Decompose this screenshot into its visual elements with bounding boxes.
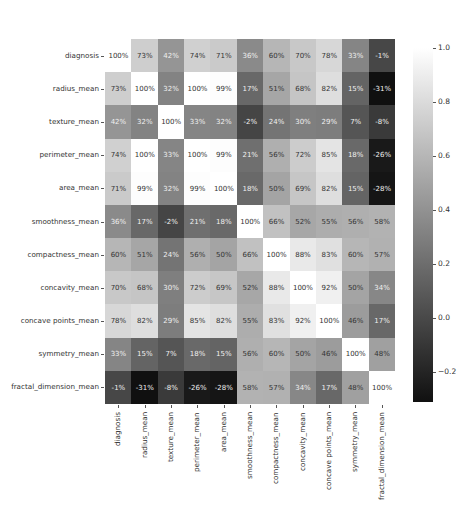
heatmap-cell: 46%: [342, 304, 369, 338]
x-tick: [197, 405, 198, 408]
heatmap-cell: 30%: [290, 105, 317, 139]
heatmap-cell: 15%: [131, 338, 158, 372]
heatmap-cell: -1%: [369, 39, 396, 73]
y-axis-label: texture_mean: [49, 117, 99, 126]
y-axis-label: perimeter_mean: [39, 150, 99, 159]
x-axis-label: fractal_dimension_mean: [377, 412, 386, 500]
y-axis-label: concave points_mean: [21, 316, 99, 325]
heatmap-cell: 69%: [290, 172, 317, 206]
heatmap-cell: 72%: [290, 139, 317, 173]
heatmap-cell: 33%: [342, 39, 369, 73]
heatmap-cell: 57%: [369, 238, 396, 272]
y-axis-label: diagnosis: [65, 51, 99, 60]
heatmap-cell: 66%: [237, 238, 264, 272]
heatmap-cell: -8%: [158, 371, 185, 405]
heatmap-cell: 56%: [342, 205, 369, 239]
heatmap-cell: 50%: [263, 172, 290, 206]
x-axis-label: area_mean: [219, 412, 228, 452]
heatmap-cell: 15%: [342, 72, 369, 106]
heatmap-cell: 50%: [210, 238, 237, 272]
y-tick: [101, 188, 104, 189]
heatmap-cell: 42%: [105, 105, 132, 139]
heatmap-cell: 55%: [316, 205, 343, 239]
heatmap-cell: -28%: [369, 172, 396, 206]
heatmap-cell: 17%: [369, 304, 396, 338]
heatmap-cell: 83%: [263, 304, 290, 338]
heatmap-cell: -31%: [131, 371, 158, 405]
heatmap-cell: 33%: [158, 139, 185, 173]
heatmap-cell: 32%: [131, 105, 158, 139]
heatmap-cell: 29%: [158, 304, 185, 338]
heatmap-cell: -2%: [237, 105, 264, 139]
y-axis-label: symmetry_mean: [39, 349, 99, 358]
colorbar-tick: [433, 156, 436, 157]
heatmap-cell: 21%: [184, 205, 211, 239]
x-tick: [224, 405, 225, 408]
heatmap-cell: 60%: [105, 238, 132, 272]
colorbar-tick-label: 0.4: [438, 205, 450, 214]
heatmap-cell: 100%: [131, 139, 158, 173]
heatmap-cell: 74%: [184, 39, 211, 73]
heatmap-cell: -26%: [369, 139, 396, 173]
colorbar-tick: [433, 372, 436, 373]
heatmap-cell: 51%: [131, 238, 158, 272]
heatmap-cell: 83%: [316, 238, 343, 272]
y-tick: [101, 354, 104, 355]
heatmap-cell: 32%: [158, 172, 185, 206]
heatmap-cell: 15%: [342, 172, 369, 206]
heatmap-cell: 7%: [158, 338, 185, 372]
colorbar-tick-label: 0.0: [438, 313, 450, 322]
heatmap-cell: 85%: [184, 304, 211, 338]
heatmap-cell: 88%: [263, 271, 290, 305]
heatmap-cell: 18%: [210, 205, 237, 239]
heatmap-cell: 52%: [290, 205, 317, 239]
x-axis-label: symmetry_mean: [350, 412, 359, 472]
x-axis-label: perimeter_mean: [192, 412, 201, 472]
heatmap-cell: 99%: [184, 172, 211, 206]
heatmap-cell: 85%: [316, 139, 343, 173]
heatmap-cell: 70%: [105, 271, 132, 305]
heatmap-cell: 72%: [184, 271, 211, 305]
heatmap-cell: 17%: [237, 72, 264, 106]
heatmap-cell: 73%: [131, 39, 158, 73]
heatmap-cell: 100%: [369, 371, 396, 405]
heatmap-cell: 92%: [316, 271, 343, 305]
colorbar-tick: [433, 210, 436, 211]
heatmap-cell: 82%: [131, 304, 158, 338]
x-tick: [118, 405, 119, 408]
heatmap-cell: 57%: [263, 371, 290, 405]
heatmap-cell: -8%: [369, 105, 396, 139]
heatmap-cell: 100%: [342, 338, 369, 372]
heatmap-cell: 18%: [342, 139, 369, 173]
heatmap-cell: 32%: [210, 105, 237, 139]
heatmap-cell: 48%: [369, 338, 396, 372]
heatmap-cell: 50%: [342, 271, 369, 305]
heatmap-cell: 56%: [184, 238, 211, 272]
x-axis-label: smoothness_mean: [245, 412, 254, 479]
heatmap-cell: 32%: [158, 72, 185, 106]
heatmap-cell: -1%: [105, 371, 132, 405]
colorbar-tick-label: 1.0: [438, 43, 450, 52]
x-tick: [382, 405, 383, 408]
heatmap-cell: 42%: [158, 39, 185, 73]
heatmap-cell: 30%: [158, 271, 185, 305]
y-tick: [101, 155, 104, 156]
heatmap-cell: 58%: [369, 205, 396, 239]
heatmap-cell: 50%: [290, 338, 317, 372]
y-tick: [101, 122, 104, 123]
heatmap-cell: 51%: [263, 72, 290, 106]
y-axis-label: concavity_mean: [40, 283, 99, 292]
y-tick: [101, 288, 104, 289]
y-tick: [101, 89, 104, 90]
colorbar-tick: [433, 48, 436, 49]
heatmap-cell: 68%: [290, 72, 317, 106]
x-axis-label: compactness_mean: [271, 412, 280, 484]
heatmap-cell: 73%: [105, 72, 132, 106]
heatmap-cell: 17%: [316, 371, 343, 405]
heatmap-cell: 99%: [210, 72, 237, 106]
colorbar-tick: [433, 102, 436, 103]
heatmap-cell: 99%: [131, 172, 158, 206]
correlation-heatmap: diagnosisradius_meantexture_meanperimete…: [0, 0, 471, 510]
heatmap-cell: 82%: [316, 72, 343, 106]
heatmap-cell: 74%: [105, 139, 132, 173]
